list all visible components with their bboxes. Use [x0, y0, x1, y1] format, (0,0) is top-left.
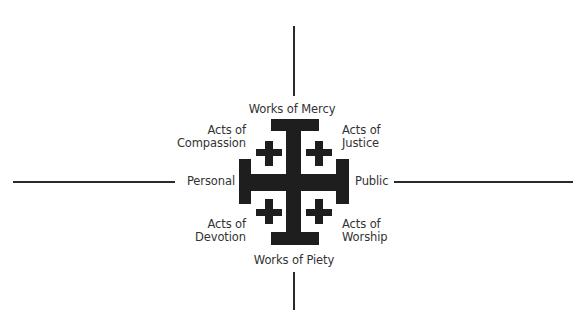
label-public: Public [355, 175, 388, 188]
cross-bottom-crossbar [271, 232, 319, 245]
label-works-of-mercy: Works of Mercy [244, 103, 340, 116]
vertical-axis-top-line [293, 26, 295, 96]
label-personal: Personal [170, 175, 235, 188]
cutoff-text-fragment [60, 0, 520, 3]
cross-left-crossbar [239, 159, 251, 204]
label-acts-of-worship: Acts of Worship [342, 218, 388, 244]
vertical-axis-bottom-line [293, 272, 295, 310]
label-works-of-piety: Works of Piety [245, 254, 343, 267]
label-acts-of-devotion: Acts of Devotion [170, 218, 246, 244]
horizontal-axis-right-line [394, 181, 573, 183]
horizontal-axis-left-line [13, 181, 175, 183]
label-acts-of-justice: Acts of Justice [342, 124, 381, 150]
cross-horizontal-bar [239, 174, 349, 191]
cross-right-crossbar [336, 159, 349, 204]
label-acts-of-compassion: Acts of Compassion [170, 124, 246, 150]
